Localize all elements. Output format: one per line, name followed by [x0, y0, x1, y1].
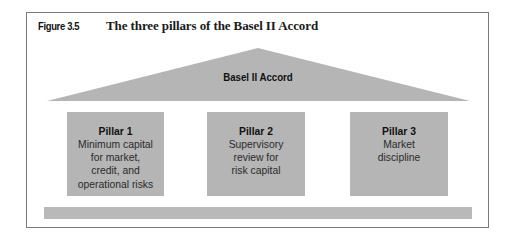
- pillar-2: Pillar 2 Supervisory review for risk cap…: [207, 112, 305, 196]
- pillar-3: Pillar 3 Market discipline: [350, 112, 448, 196]
- pillar-3-description: Market discipline: [355, 138, 443, 164]
- pillar-1: Pillar 1 Minimum capital for market, cre…: [67, 112, 164, 196]
- foundation-base-bar: [44, 207, 472, 219]
- pillar-1-description: Minimum capital for market, credit, and …: [72, 138, 159, 191]
- pillar-1-title: Pillar 1: [72, 125, 159, 138]
- pillar-2-description: Supervisory review for risk capital: [212, 138, 300, 178]
- pillar-2-title: Pillar 2: [212, 125, 300, 138]
- roof-label: Basel II Accord: [205, 71, 311, 83]
- pillar-3-title: Pillar 3: [355, 125, 443, 138]
